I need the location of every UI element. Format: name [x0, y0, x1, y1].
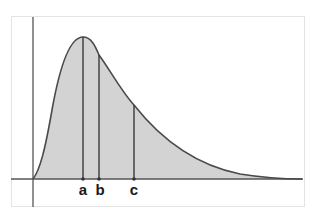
marker-label-a: a [79, 181, 88, 198]
diagram-canvas: a b c [0, 0, 312, 217]
marker-label-c: c [130, 181, 138, 198]
marker-label-b: b [95, 181, 104, 198]
